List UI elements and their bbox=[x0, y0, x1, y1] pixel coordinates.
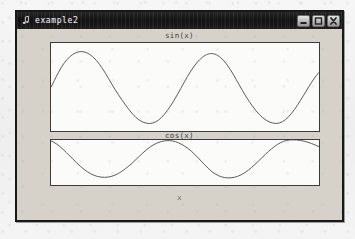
application-window: example2 sin(x) bbox=[15, 10, 344, 222]
note-icon bbox=[20, 15, 31, 26]
cos-plot-axes bbox=[50, 139, 320, 186]
window-title: example2 bbox=[35, 16, 78, 25]
window-controls bbox=[297, 15, 340, 27]
close-button[interactable] bbox=[327, 15, 340, 27]
cos-curve bbox=[51, 140, 319, 178]
maximize-button[interactable] bbox=[312, 15, 325, 27]
window-titlebar[interactable]: example2 bbox=[17, 12, 342, 29]
sin-plot-label: sin(x) bbox=[17, 31, 342, 40]
sin-plot-axes bbox=[50, 42, 320, 132]
plot-figure: sin(x) cos(x) x bbox=[17, 29, 342, 220]
minimize-button[interactable] bbox=[297, 15, 310, 27]
window-client-area: sin(x) cos(x) x bbox=[17, 29, 342, 220]
x-axis-label: x bbox=[17, 193, 342, 202]
sin-curve bbox=[51, 52, 319, 124]
